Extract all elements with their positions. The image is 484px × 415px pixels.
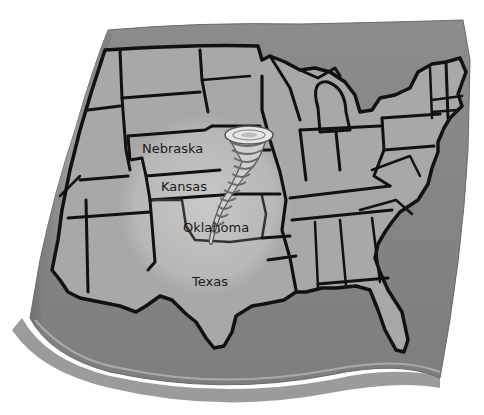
us-map-illustration: Nebraska Kansas Oklahoma Texas <box>0 0 484 415</box>
label-kansas: Kansas <box>161 179 207 194</box>
label-texas: Texas <box>192 274 228 289</box>
label-nebraska: Nebraska <box>142 141 203 156</box>
map-graphic <box>0 0 484 415</box>
label-oklahoma: Oklahoma <box>183 220 249 235</box>
